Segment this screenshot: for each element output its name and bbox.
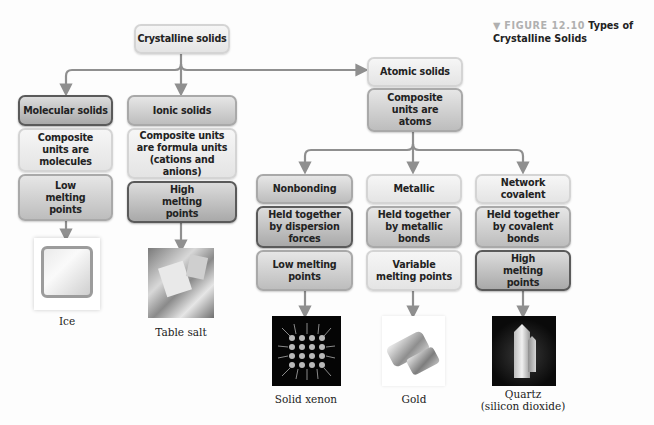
ice-image [34, 238, 100, 310]
molecular-solids-box: Molecular solids [18, 95, 113, 126]
quartz-caption: Quartz (silicon dioxide) [470, 388, 576, 412]
atomic-units-box: Composite units are atoms [367, 88, 463, 132]
gold-caption: Gold [366, 393, 462, 405]
figure-number: FIGURE 12.10 [504, 20, 585, 31]
nonbonding-melting-box: Low melting points [256, 250, 353, 291]
molecular-melting-box: Low melting points [18, 174, 113, 221]
solid-xenon-image [272, 316, 341, 386]
quartz-image [492, 316, 556, 386]
quartz-caption-line1: Quartz [505, 388, 541, 400]
ionic-melting-box: High melting points [127, 181, 237, 223]
figure-marker-icon: ▼ [493, 20, 501, 31]
quartz-crystal-icon [528, 336, 536, 372]
network-bond-box: Held together by covalent bonds [475, 206, 571, 248]
quartz-caption-line2: (silicon dioxide) [481, 400, 566, 412]
metallic-bond-box: Held together by metallic bonds [366, 206, 462, 248]
solid-xenon-caption: Solid xenon [258, 393, 354, 405]
ice-caption: Ice [34, 315, 100, 327]
metallic-melting-box: Variable melting points [366, 250, 462, 291]
ice-cube-icon [41, 246, 93, 298]
root-crystalline-solids: Crystalline solids [134, 24, 230, 54]
nonbonding-bond-box: Held together by dispersion forces [256, 206, 353, 248]
figure-title-line1: Types of [588, 20, 633, 31]
quartz-crystal-icon [514, 324, 530, 378]
ionic-solids-box: Ionic solids [127, 95, 237, 126]
table-salt-image [148, 248, 214, 318]
gold-image [382, 316, 445, 386]
table-salt-caption: Table salt [138, 326, 224, 338]
metallic-box: Metallic [366, 174, 462, 204]
ionic-units-box: Composite units are formula units (catio… [127, 128, 237, 179]
atomic-solids-box: Atomic solids [367, 57, 463, 87]
figure-title-line2: Crystalline Solids [493, 33, 587, 44]
network-covalent-box: Network covalent [475, 174, 571, 204]
xenon-lattice-icon [272, 316, 341, 386]
figure-caption: ▼ FIGURE 12.10 Types of Crystalline Soli… [493, 19, 633, 45]
nonbonding-box: Nonbonding [256, 174, 353, 204]
molecular-units-box: Composite units are molecules [18, 128, 113, 172]
network-melting-box: High melting points [475, 250, 571, 291]
salt-crystal-icon [186, 254, 208, 279]
